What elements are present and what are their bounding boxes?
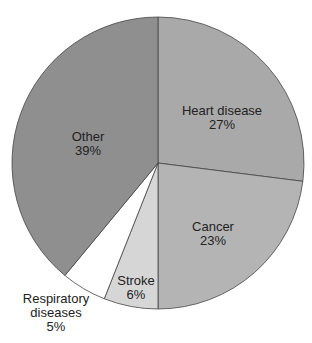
label-pct: 23% (192, 234, 234, 248)
slice-heart-disease (158, 17, 304, 181)
label-stroke: Stroke 6% (117, 274, 155, 302)
label-name: Cancer (192, 220, 234, 234)
label-name: Respiratory (23, 292, 89, 306)
label-name: Stroke (117, 274, 155, 288)
label-cancer: Cancer 23% (192, 220, 234, 248)
label-name: Heart disease (182, 104, 262, 118)
label-respiratory: Respiratory diseases 5% (23, 292, 89, 334)
label-pct: 6% (117, 288, 155, 302)
label-name: Other (72, 130, 105, 144)
label-pct: 5% (23, 320, 89, 334)
label-name-2: diseases (23, 306, 89, 320)
label-other: Other 39% (72, 130, 105, 158)
label-heart-disease: Heart disease 27% (182, 104, 262, 132)
label-pct: 27% (182, 118, 262, 132)
label-pct: 39% (72, 144, 105, 158)
